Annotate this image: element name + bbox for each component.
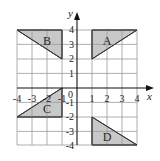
x-axis-label: x [146,90,152,102]
svg-text:3: 3 [120,93,125,104]
label-a: A [103,34,112,48]
svg-text:4: 4 [135,93,140,104]
svg-text:2: 2 [105,93,110,104]
svg-text:4: 4 [69,24,74,35]
svg-text:2: 2 [69,53,74,64]
svg-text:-2: -2 [66,111,74,122]
label-d: D [103,130,112,144]
label-b: B [43,34,51,48]
coordinate-grid: x y 0 -4 -3 -2 -1 1 2 3 4 4 3 2 1 -1 -2 … [0,0,160,161]
svg-text:1: 1 [69,68,74,79]
y-axis-label: y [67,7,73,19]
svg-text:-3: -3 [66,126,74,137]
y-axis-arrow-icon [74,12,80,20]
svg-text:-1: -1 [66,97,74,108]
svg-text:3: 3 [69,39,74,50]
label-c: C [43,102,51,116]
svg-text:-3: -3 [28,93,36,104]
svg-text:-4: -4 [13,93,21,104]
svg-text:-4: -4 [66,140,74,151]
svg-text:1: 1 [90,93,95,104]
